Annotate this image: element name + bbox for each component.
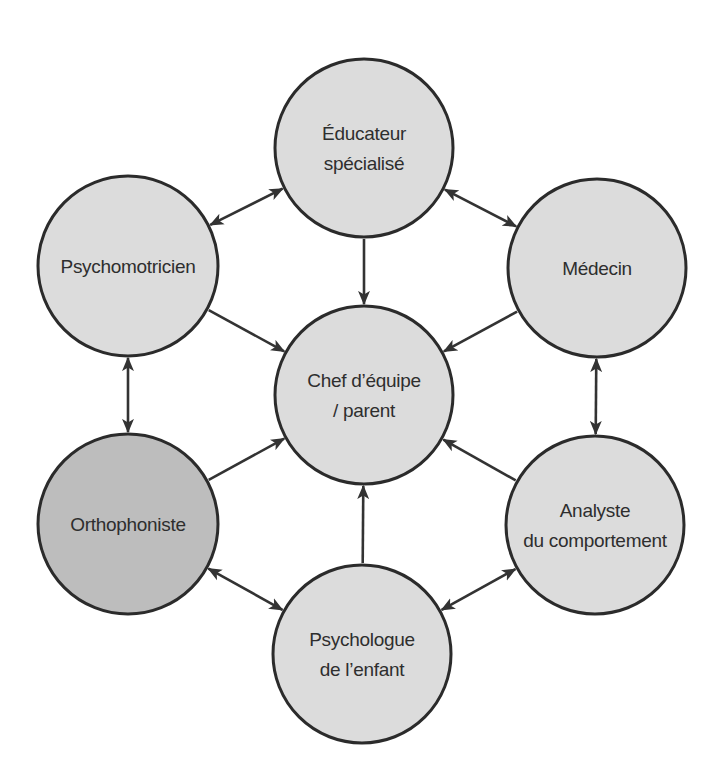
team-diagram: ÉducateurspécialiséPsychomotricienMédeci…: [0, 0, 724, 774]
node-label: Médecin: [562, 258, 632, 279]
edge-psychomotricien-chef: [209, 310, 284, 351]
node-chef: Chef d’équipe/ parent: [275, 306, 453, 484]
node-label: Psychologue: [309, 629, 415, 650]
node-label: du comportement: [523, 530, 667, 551]
edge-orthophoniste-chef: [209, 439, 284, 480]
nodes-layer: ÉducateurspécialiséPsychomotricienMédeci…: [38, 59, 686, 743]
node-circle: [275, 306, 453, 484]
node-label: Orthophoniste: [70, 514, 185, 535]
node-circle: [275, 59, 453, 237]
node-educateur: Éducateurspécialisé: [275, 59, 453, 237]
edge-psychologue-chef: [363, 486, 364, 563]
node-psychomotricien: Psychomotricien: [38, 176, 218, 356]
node-circle: [506, 436, 684, 614]
node-label: / parent: [333, 400, 396, 421]
node-label: de l’enfant: [320, 659, 405, 680]
edge-analyste-psychologue: [442, 569, 516, 610]
edge-analyste-chef: [443, 440, 515, 481]
edge-medecin-chef: [444, 312, 517, 352]
node-medecin: Médecin: [508, 179, 686, 357]
node-label: spécialisé: [324, 153, 404, 174]
node-analyste: Analystedu comportement: [506, 436, 684, 614]
node-label: Psychomotricien: [61, 256, 196, 277]
node-label: Éducateur: [322, 123, 407, 144]
node-label: Chef d’équipe: [307, 370, 420, 391]
node-label: Analyste: [560, 500, 630, 521]
node-orthophoniste: Orthophoniste: [38, 434, 218, 614]
edge-orthophoniste-psychologue: [208, 569, 282, 610]
edge-educateur-medecin: [445, 190, 516, 227]
edge-educateur-psychomotricien: [210, 189, 282, 225]
edge-medecin-analyste: [596, 359, 597, 434]
node-circle: [273, 565, 451, 743]
node-psychologue: Psychologuede l’enfant: [273, 565, 451, 743]
